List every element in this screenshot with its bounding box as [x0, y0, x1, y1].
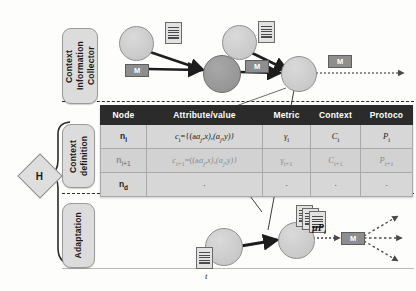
cell-protocol: Pi: [361, 125, 413, 149]
section-label-adaptation: Adaptation: [62, 203, 95, 268]
cell-node: nd: [101, 173, 147, 197]
cell-protocol: ·: [361, 173, 413, 197]
cell-node: ni+1: [101, 149, 147, 173]
message-box-m: M: [341, 232, 365, 245]
table-body: nici={(aaj,x),(aj,y)}γiCiPini+1ci+1=((aa…: [101, 125, 413, 197]
cell-metric: γi+1: [263, 149, 311, 173]
hub-label: H: [36, 170, 43, 181]
document-icon: [196, 247, 213, 269]
table-row: ni+1ci+1=((aaj,x),(aj,y)}γi+1Ci+1Pi+1: [101, 149, 413, 173]
node-circle-active: [203, 55, 241, 93]
document-icon: [165, 22, 182, 44]
column-header-context: Context: [311, 106, 361, 125]
cell-context: Ci: [311, 125, 361, 149]
column-header-metric: Metric: [263, 106, 311, 125]
cell-attribute-value: ·: [147, 173, 263, 197]
table-row: nd····: [101, 173, 413, 197]
time-axis-line: [62, 268, 414, 269]
time-axis-label: t: [205, 271, 208, 281]
message-box-m: M: [328, 55, 352, 68]
mu-protocol-subscript: i: [324, 228, 326, 235]
cell-node: ni: [101, 125, 147, 149]
mu-protocol-label: µPi: [312, 222, 326, 235]
cell-context: Ci+1: [311, 149, 361, 173]
cell-attribute-value: ci+1=((aaj,x),(aj,y)}: [147, 149, 263, 173]
column-header-node: Node: [101, 106, 147, 125]
section-label-context-definition-text: Context definition: [68, 125, 90, 187]
document-icon: [258, 21, 275, 43]
section-label-context-definition: Context definition: [62, 124, 95, 188]
cell-protocol: Pi+1: [361, 149, 413, 173]
table-header-row: Node Attribute/value Metric Context Prot…: [101, 106, 413, 125]
diagram-canvas: t H Context Information Collector Contex…: [0, 0, 416, 291]
context-definition-table: Node Attribute/value Metric Context Prot…: [100, 105, 413, 197]
section-label-collector-text: Context Information Collector: [64, 29, 97, 103]
column-header-attribute-value: Attribute/value: [147, 106, 263, 125]
node-circle: [119, 26, 154, 61]
hub-diamond: H: [17, 153, 62, 198]
column-header-protocol: Protoco: [361, 106, 413, 125]
section-label-collector: Context Information Collector: [62, 28, 98, 104]
cell-attribute-value: ci={(aaj,x),(aj,y)}: [147, 125, 263, 149]
node-circle: [222, 25, 257, 60]
cell-metric: γi: [263, 125, 311, 149]
section-divider-top: [62, 101, 414, 102]
table-row: nici={(aaj,x),(aj,y)}γiCiPi: [101, 125, 413, 149]
message-box-m: M: [125, 64, 149, 77]
node-circle: [281, 56, 317, 92]
message-box-m: M: [245, 60, 269, 73]
mu-protocol-text: µP: [312, 222, 324, 233]
cell-context: ·: [311, 173, 361, 197]
section-label-adaptation-text: Adaptation: [73, 212, 84, 258]
cell-metric: ·: [263, 173, 311, 197]
